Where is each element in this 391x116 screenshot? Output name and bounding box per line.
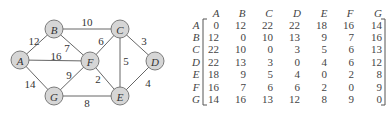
matrix-cell: 0 [322,68,328,80]
matrix-column-header: B [239,7,246,19]
node-label: F [86,56,94,68]
matrix-cell: 18 [208,68,220,80]
matrix-cell: 6 [268,81,274,93]
matrix-cell: 14 [208,93,220,105]
matrix-cell: 0 [377,93,383,105]
matrix-cell: 6 [349,43,355,55]
edge-weight-g-e: 8 [84,97,90,109]
matrix-cell: 4 [295,68,301,80]
matrix-cell: 6 [349,56,355,68]
edge-weight-c-e: 5 [123,55,129,67]
edge-weight-f-e: 2 [95,73,101,85]
matrix-cell: 3 [295,43,301,55]
edge-weight-a-f: 16 [51,50,63,62]
matrix-column-header: E [320,7,328,19]
node-c: C [111,20,129,38]
node-label: B [51,24,58,36]
matrix-cell: 9 [241,68,247,80]
matrix-cell: 0 [349,81,355,93]
matrix-cell: 9 [349,93,355,105]
matrix-cell: 4 [322,56,328,68]
matrix-column-header: G [374,7,382,19]
node-b: B [45,20,63,38]
matrix-cell: 2 [322,81,328,93]
matrix-cell: 10 [235,43,247,55]
matrix-cell: 9 [377,81,383,93]
node-d: D [146,52,164,70]
matrix-row-label: B [193,31,200,43]
matrix-cell: 6 [295,81,301,93]
edge-weight-a-g: 14 [25,78,37,90]
node-e: E [111,87,129,105]
matrix-cell: 12 [235,19,246,31]
matrix-cell: 22 [208,56,219,68]
matrix-row-label: C [192,43,200,55]
matrix-cell: 8 [322,93,328,105]
matrix-column-header: A [212,7,220,19]
matrix-cell: 0 [214,19,220,31]
matrix-cell: 16 [371,31,383,43]
edge-weight-b-c: 10 [82,16,94,28]
node-f: F [81,52,99,70]
edge-weight-d-e: 4 [145,77,151,89]
matrix-cell: 16 [343,19,355,31]
matrix-row-labels: ABCDEFG [191,19,200,105]
matrix-cell: 0 [295,56,301,68]
matrix-cell: 7 [349,31,355,43]
matrix-cell: 9 [322,31,328,43]
matrix-cell: 10 [262,31,274,43]
node-label: D [150,56,159,68]
matrix-cell: 8 [377,68,383,80]
matrix-cell: 2 [349,68,355,80]
matrix-cell: 5 [322,43,328,55]
node-label: G [50,91,58,103]
matrix-left-bracket [203,19,207,105]
matrix-cell: 16 [235,93,247,105]
matrix-row-label: D [191,56,200,68]
node-label: A [16,55,24,67]
matrix-column-header: C [265,7,273,19]
matrix-row-label: E [192,68,200,80]
matrix-cell: 7 [241,81,247,93]
matrix-cell: 12 [371,56,382,68]
node-label: C [116,24,124,36]
node-label: E [116,91,124,103]
matrix-row-label: A [192,19,200,31]
matrix-cell: 22 [289,19,300,31]
matrix-cell: 22 [208,43,219,55]
matrix-cell: 0 [268,43,274,55]
matrix-column-headers: ABCDEFG [212,7,382,19]
matrix-cells: 0122222181614120101397162210035613221330… [208,19,383,105]
matrix-cell: 13 [289,31,301,43]
matrix-column-header: F [346,7,354,19]
matrix-column-header: D [292,7,301,19]
edge-weight-f-g: 9 [66,69,72,81]
matrix-row-label: F [192,81,200,93]
node-g: G [45,87,63,105]
matrix-cell: 13 [235,56,247,68]
edge-weight-c-d: 3 [141,35,147,47]
matrix-cell: 16 [208,81,220,93]
matrix-cell: 0 [241,31,247,43]
graph-nodes: ABCDEFG [11,20,164,105]
weighted-graph: 1216141076539248 ABCDEFG [0,0,180,116]
matrix-cell: 12 [289,93,300,105]
edge-weight-b-f: 7 [64,42,70,54]
edge-weight-c-f: 6 [98,35,104,47]
matrix-cell: 12 [208,31,219,43]
matrix-cell: 18 [316,19,328,31]
matrix-row-label: G [192,93,200,105]
matrix-cell: 22 [262,19,273,31]
matrix-cell: 3 [268,56,274,68]
matrix-cell: 13 [371,43,383,55]
matrix-cell: 14 [371,19,383,31]
matrix-right-bracket [381,19,385,105]
node-a: A [11,51,29,69]
matrix-cell: 5 [268,68,274,80]
matrix-cell: 13 [262,93,274,105]
edge-weight-a-b: 12 [29,35,40,47]
